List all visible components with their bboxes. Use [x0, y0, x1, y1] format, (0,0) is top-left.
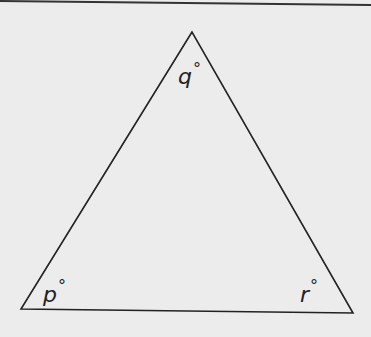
- degree-symbol-p: °: [58, 276, 66, 295]
- angle-label-r: r °: [300, 276, 318, 307]
- degree-symbol-q: °: [193, 59, 201, 78]
- top-border-line: [0, 1, 371, 5]
- angle-label-q: q °: [178, 59, 201, 89]
- diagram-canvas: q ° p ° r °: [0, 0, 371, 337]
- angle-variable-p: p: [42, 282, 57, 307]
- angle-variable-q: q: [178, 64, 192, 89]
- degree-symbol-r: °: [310, 276, 318, 295]
- triangle-figure: q ° p ° r °: [0, 0, 371, 337]
- angle-label-p: p °: [42, 276, 66, 307]
